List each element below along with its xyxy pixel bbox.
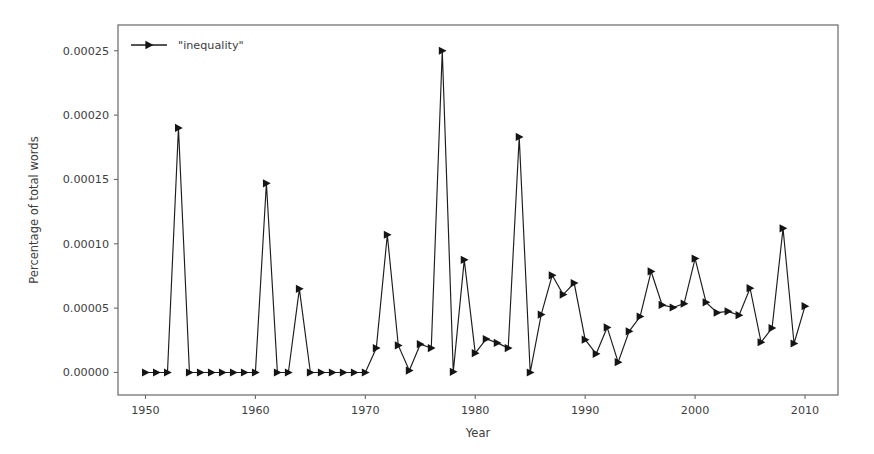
data-point-marker xyxy=(736,311,744,319)
data-point-marker xyxy=(802,302,810,310)
data-point-marker xyxy=(219,368,227,376)
data-series-markers xyxy=(142,47,809,377)
x-axis-label: Year xyxy=(465,426,491,440)
y-tick-label: 0.00025 xyxy=(63,45,109,58)
data-point-marker xyxy=(318,368,326,376)
x-tick-label: 1950 xyxy=(131,404,159,417)
legend-marker-icon xyxy=(145,41,153,50)
data-point-marker xyxy=(626,327,634,335)
plot-frame xyxy=(118,25,838,395)
data-series-line xyxy=(145,51,805,373)
data-point-marker xyxy=(406,366,414,374)
y-tick-label: 0.00010 xyxy=(63,238,109,251)
x-tick-label: 1960 xyxy=(241,404,269,417)
data-point-marker xyxy=(230,368,238,376)
y-axis-label: Percentage of total words xyxy=(27,136,41,283)
x-tick-label: 1970 xyxy=(351,404,379,417)
data-point-marker xyxy=(549,271,557,279)
y-tick-label: 0.00000 xyxy=(63,366,109,379)
data-point-marker xyxy=(494,339,502,347)
data-point-marker xyxy=(725,307,733,315)
legend-label: "inequality" xyxy=(178,39,244,52)
data-point-marker xyxy=(362,368,370,376)
y-tick-label: 0.00020 xyxy=(63,109,109,122)
data-point-marker xyxy=(395,341,403,349)
data-point-marker xyxy=(340,368,348,376)
y-tick-label: 0.00015 xyxy=(63,173,109,186)
chart-figure: 0.000000.000050.000100.000150.000200.000… xyxy=(0,0,874,454)
data-point-marker xyxy=(670,303,678,311)
data-point-marker xyxy=(593,350,601,358)
data-point-marker xyxy=(351,368,359,376)
y-axis-ticks: 0.000000.000050.000100.000150.000200.000… xyxy=(63,45,118,380)
data-point-marker xyxy=(307,368,315,376)
data-point-marker xyxy=(197,368,205,376)
data-point-marker xyxy=(274,368,282,376)
data-point-marker xyxy=(659,301,667,309)
x-tick-label: 1980 xyxy=(461,404,489,417)
data-point-marker xyxy=(142,368,150,376)
x-tick-label: 2000 xyxy=(681,404,709,417)
data-point-marker xyxy=(714,309,722,317)
data-point-marker xyxy=(582,336,590,344)
line-chart: 0.000000.000050.000100.000150.000200.000… xyxy=(0,0,874,454)
data-point-marker xyxy=(483,335,491,343)
x-axis-ticks: 1950196019701980199020002010 xyxy=(131,395,819,417)
data-point-marker xyxy=(472,349,480,357)
x-tick-label: 2010 xyxy=(791,404,819,417)
x-tick-label: 1990 xyxy=(571,404,599,417)
data-point-marker xyxy=(208,368,216,376)
data-point-marker xyxy=(153,368,161,376)
data-point-marker xyxy=(329,368,337,376)
data-point-marker xyxy=(417,340,425,348)
data-point-marker xyxy=(241,368,249,376)
legend: "inequality" xyxy=(131,39,244,52)
data-point-marker xyxy=(758,338,766,346)
y-tick-label: 0.00005 xyxy=(63,302,109,315)
